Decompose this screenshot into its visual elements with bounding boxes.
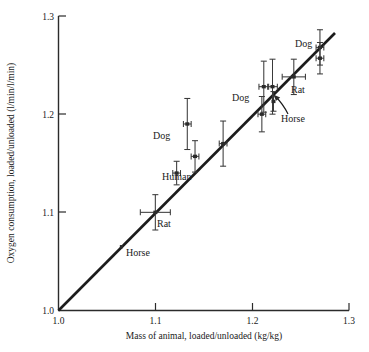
label-horse-high: Horse: [281, 113, 305, 124]
point-marker: [271, 85, 275, 88]
oxygen-consumption-scatter-figure: 1.3 1.2 1.1 1.0 1.0 1.1 1.2 1.3 Dog Huma…: [0, 0, 369, 352]
point-marker: [260, 112, 264, 115]
y-tick-labels: 1.3 1.2 1.1 1.0: [42, 12, 54, 316]
point-marker: [193, 155, 197, 158]
y-tick-label-1.3: 1.3: [42, 12, 54, 22]
data-point-dog-b[interactable]: [191, 141, 199, 172]
x-axis-title: Mass of animal, loaded/unloaded (kg/kg): [126, 331, 282, 342]
label-dog-left: Dog: [153, 130, 170, 141]
y-tick-label-1.0: 1.0: [42, 306, 54, 316]
data-point-dog-c[interactable]: [219, 121, 227, 166]
point-marker: [318, 57, 322, 60]
y-tick-label-1.2: 1.2: [42, 110, 54, 120]
label-dog-right: Dog: [295, 38, 312, 49]
x-tick-label-1.3: 1.3: [343, 316, 355, 326]
x-tick-label-1.0: 1.0: [53, 316, 65, 326]
x-tick-label-1.1: 1.1: [150, 316, 162, 326]
leader-line-horse: [276, 97, 288, 114]
point-marker: [153, 211, 157, 214]
chart-canvas: 1.3 1.2 1.1 1.0 1.0 1.1 1.2 1.3 Dog Huma…: [0, 0, 369, 352]
y-tick-label-1.1: 1.1: [42, 208, 54, 218]
point-marker: [262, 85, 266, 88]
data-point-dog-a[interactable]: [183, 98, 191, 149]
point-marker: [120, 245, 123, 248]
point-marker: [271, 100, 275, 103]
data-point-horse-low[interactable]: [120, 245, 123, 248]
label-horse-low: Horse: [126, 247, 150, 258]
label-rat-low: Rat: [157, 218, 171, 229]
point-marker: [221, 142, 225, 145]
x-tick-label-1.2: 1.2: [247, 316, 259, 326]
data-point-dog-f[interactable]: [268, 59, 278, 114]
y-axis-title: Oxygen consumption, loaded/unloaded (l/m…: [6, 63, 17, 264]
data-points-layer: [120, 30, 324, 249]
label-rat-high: Rat: [291, 84, 305, 95]
data-point-dog-d[interactable]: [258, 96, 266, 131]
point-marker: [185, 122, 189, 125]
point-marker: [292, 75, 296, 78]
x-tick-labels: 1.0 1.1 1.2 1.3: [53, 316, 356, 326]
label-dog-mid: Dog: [232, 92, 249, 103]
label-human: Human: [162, 171, 191, 182]
data-point-horse-high[interactable]: [270, 92, 276, 112]
